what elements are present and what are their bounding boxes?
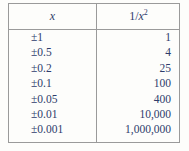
cell-x-value: ±0.01 — [31, 107, 91, 122]
cell-x-value: ±0.001 — [31, 122, 91, 137]
table-row: ±0.2 25 — [9, 61, 179, 76]
cell-y-value: 25 — [97, 61, 171, 76]
table-row: ±0.1 100 — [9, 76, 179, 91]
table-header-row: x 1/x2 — [9, 4, 179, 29]
cell-x-value: ±0.05 — [31, 92, 91, 107]
cell-y-value: 400 — [97, 92, 171, 107]
cell-y-value: 1 — [97, 30, 171, 45]
table-row: ±1 1 — [9, 30, 179, 45]
cell-x-value: ±0.5 — [31, 45, 91, 60]
header-exponent: 2 — [144, 8, 148, 17]
column-header-one-over-x-squared: 1/x2 — [97, 4, 180, 29]
column-header-x: x — [9, 4, 96, 29]
cell-x-value: ±1 — [31, 30, 91, 45]
cell-y-value: 100 — [97, 76, 171, 91]
cell-y-value: 4 — [97, 45, 171, 60]
table-row: ±0.001 1,000,000 — [9, 122, 179, 137]
table-row: ±0.5 4 — [9, 45, 179, 60]
cell-x-value: ±0.2 — [31, 61, 91, 76]
cell-y-value: 1,000,000 — [97, 122, 171, 137]
values-table: x 1/x2 ±1 1 ±0.5 4 ±0.2 25 ±0.1 100 — [8, 3, 180, 143]
cell-x-value: ±0.1 — [31, 76, 91, 91]
column-header-x-label: x — [50, 9, 55, 23]
table-row: ±0.05 400 — [9, 92, 179, 107]
cell-y-value: 10,000 — [97, 107, 171, 122]
table-body: ±1 1 ±0.5 4 ±0.2 25 ±0.1 100 ±0.05 400 ±… — [9, 30, 179, 138]
table-row: ±0.01 10,000 — [9, 107, 179, 122]
page-background: x 1/x2 ±1 1 ±0.5 4 ±0.2 25 ±0.1 100 — [0, 0, 189, 151]
